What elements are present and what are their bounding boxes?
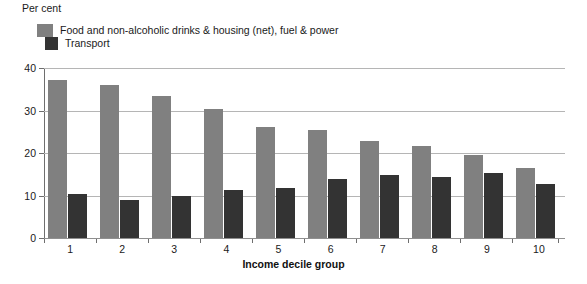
- x-tick-label-10: 10: [524, 244, 554, 255]
- x-tick-9: [460, 239, 461, 243]
- bar-series1-decile-6: [308, 130, 327, 238]
- bar-series1-decile-3: [152, 96, 171, 238]
- x-tick-end: [558, 239, 559, 243]
- bar-series2-decile-7: [380, 175, 399, 238]
- y-tick-label-20: 20: [8, 148, 36, 159]
- bar-series1-decile-7: [360, 141, 379, 238]
- x-tick-8: [408, 239, 409, 243]
- bars-layer: [44, 68, 565, 238]
- x-tick-2: [96, 239, 97, 243]
- y-axis-labels: 403020100: [4, 0, 36, 284]
- x-tick-5: [252, 239, 253, 243]
- bar-series1-decile-2: [100, 85, 119, 238]
- y-tick-label-40: 40: [8, 63, 36, 74]
- x-tick-label-1: 1: [55, 244, 85, 255]
- bar-series2-decile-5: [276, 188, 295, 238]
- y-tick-label-10: 10: [8, 191, 36, 202]
- bar-series2-decile-2: [120, 200, 139, 238]
- x-tick-label-8: 8: [420, 244, 450, 255]
- x-axis-title: Income decile group: [0, 258, 587, 270]
- x-tick-3: [148, 239, 149, 243]
- x-tick-10: [512, 239, 513, 243]
- x-tick-4: [200, 239, 201, 243]
- bar-series2-decile-4: [224, 190, 243, 238]
- bar-series1-decile-8: [412, 146, 431, 238]
- bar-series1-decile-1: [48, 80, 67, 238]
- x-tick-label-4: 4: [211, 244, 241, 255]
- x-tick-label-6: 6: [316, 244, 346, 255]
- bar-series2-decile-9: [484, 173, 503, 238]
- x-tick-1: [44, 239, 45, 243]
- x-tick-label-3: 3: [159, 244, 189, 255]
- chart-screenshot: Per cent Food and non-alcoholic drinks &…: [0, 0, 587, 284]
- x-tick-label-5: 5: [263, 244, 293, 255]
- y-tick-label-0: 0: [8, 233, 36, 244]
- x-tick-label-9: 9: [472, 244, 502, 255]
- x-tick-6: [304, 239, 305, 243]
- x-tick-7: [356, 239, 357, 243]
- plot-wrapper: 403020100 12345678910 Income decile grou…: [0, 0, 587, 284]
- bar-series2-decile-8: [432, 177, 451, 238]
- y-tick-label-30: 30: [8, 106, 36, 117]
- plot-area: [44, 68, 565, 238]
- bar-series1-decile-10: [516, 168, 535, 238]
- bar-series1-decile-5: [256, 127, 275, 238]
- bar-series1-decile-9: [464, 155, 483, 238]
- bar-series1-decile-4: [204, 109, 223, 238]
- bar-series2-decile-10: [536, 184, 555, 238]
- x-tick-label-7: 7: [368, 244, 398, 255]
- x-tick-label-2: 2: [107, 244, 137, 255]
- bar-series2-decile-3: [172, 196, 191, 238]
- bar-series2-decile-6: [328, 179, 347, 238]
- bar-series2-decile-1: [68, 194, 87, 238]
